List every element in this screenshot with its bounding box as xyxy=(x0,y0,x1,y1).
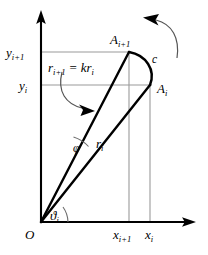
arc-label-c: c xyxy=(152,53,157,65)
radius-r-i-plus-1-line xyxy=(41,52,129,222)
equation-pointer-arrow xyxy=(61,72,95,116)
equation-pointer-arrowhead xyxy=(79,105,95,117)
radius-r-i-line xyxy=(41,85,150,222)
arc-c-curve xyxy=(129,52,152,85)
rotation-arrow-curve xyxy=(156,20,178,58)
angle-label-theta-i: ϑi xyxy=(50,208,59,225)
point-label-A-i: Ai xyxy=(156,81,168,98)
y-tick-label-i: yi xyxy=(17,78,28,95)
spiral-construction-figure: yi+1 yi xi+1 xi O Ai+1 Ai c ri+1=kri ri … xyxy=(0,0,208,255)
equation-pointer-curve xyxy=(61,72,82,108)
equation-label: ri+1=kri xyxy=(48,60,95,77)
angle-label-phi: φ xyxy=(73,142,80,155)
diagram-root: yi+1 yi xi+1 xi O Ai+1 Ai c ri+1=kri ri … xyxy=(0,0,208,255)
x-tick-label-i: xi xyxy=(144,227,154,244)
x-tick-label-i-plus-1: xi+1 xyxy=(112,227,131,244)
point-label-A-i-plus-1: Ai+1 xyxy=(109,32,130,49)
rotation-arrow xyxy=(143,14,178,58)
segment-label-r-i: ri xyxy=(96,136,104,153)
angle-theta-i-arc xyxy=(63,207,68,222)
origin-label: O xyxy=(25,227,35,242)
y-tick-label-i-plus-1: yi+1 xyxy=(4,45,24,62)
